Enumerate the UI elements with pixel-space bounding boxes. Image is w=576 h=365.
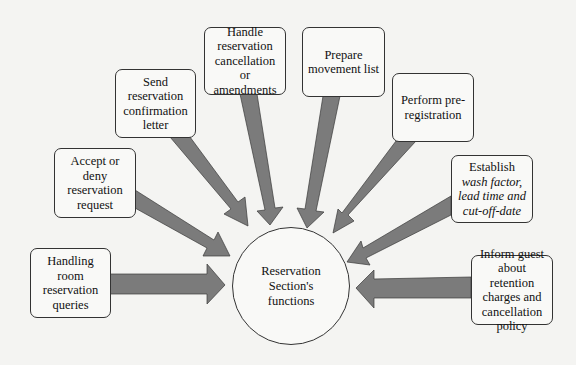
node-establish-wash: Establish wash factor, lead time and cut…: [451, 155, 533, 223]
center-label: Reservation Section's functions: [251, 264, 331, 309]
node-label: Handle reservation cancellation or amend…: [209, 25, 281, 98]
node-handle-cancellation: Handle reservation cancellation or amend…: [204, 27, 286, 95]
arrow-handle-cancellation: [240, 94, 283, 225]
node-label: Establish wash factor, lead time and cut…: [456, 160, 528, 218]
node-pre-registration: Perform pre-registration: [392, 73, 474, 142]
node-prepare-movement: Prepare movement list: [302, 27, 385, 97]
node-label: Accept or deny reservation request: [59, 154, 131, 212]
node-label: Send reservation confirmation letter: [120, 75, 191, 133]
node-inform-guest: Inform guest about retention charges and…: [471, 255, 553, 325]
node-label: Inform guest about retention charges and…: [476, 247, 548, 334]
arrow-pre-registration: [333, 141, 416, 233]
center-circle: Reservation Section's functions: [232, 227, 350, 345]
arrow-accept-deny: [135, 190, 230, 256]
node-send-confirmation: Send reservation confirmation letter: [115, 69, 196, 138]
node-label: Prepare movement list: [307, 48, 380, 77]
node-handling-queries: Handling room reservation queries: [30, 248, 111, 318]
arrow-send-confirmation: [170, 137, 248, 226]
arrow-establish-wash: [347, 196, 451, 265]
label-italic: wash factor, lead time and cut-off-date: [458, 175, 526, 218]
node-label: Perform pre-registration: [397, 93, 469, 122]
node-label: Handling room reservation queries: [35, 254, 106, 312]
arrow-prepare-movement: [297, 96, 340, 228]
arrow-handling-queries: [110, 264, 225, 304]
label-prefix: Establish: [469, 160, 515, 174]
node-accept-deny: Accept or deny reservation request: [54, 148, 136, 218]
arrow-inform-guest: [356, 270, 471, 308]
